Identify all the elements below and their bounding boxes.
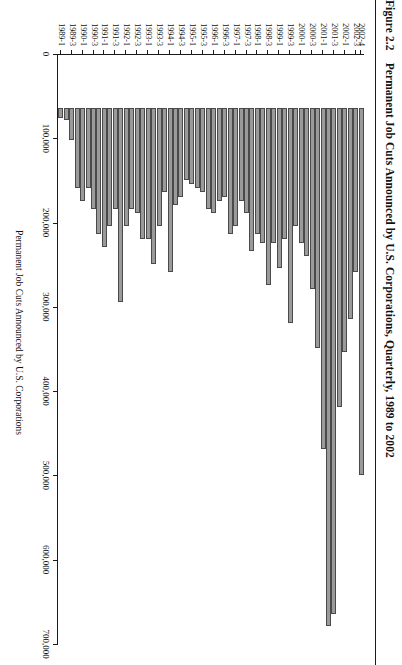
bar [118, 108, 123, 302]
value-axis-tick-label: 600,000 [41, 545, 51, 574]
category-axis-tick [300, 50, 301, 54]
category-axis-label: 2000-1 [297, 23, 306, 46]
category-axis-tick [289, 50, 290, 54]
category-axis-label: 1993-1 [144, 23, 153, 46]
rotated-page-wrapper: Figure 2.2Permanent Job Cuts Announced b… [0, 0, 402, 665]
category-axis-label: 1995-1 [187, 23, 196, 46]
category-axis-label: 1997-1 [231, 23, 240, 46]
bar [69, 108, 74, 140]
category-axis-label: 1989-1 [56, 23, 65, 46]
value-axis-tick-label: 300,000 [41, 292, 51, 321]
category-axis-label: 1999-3 [286, 23, 295, 46]
bar [129, 108, 134, 209]
value-axis-tick [53, 560, 58, 561]
category-axis-tick [278, 50, 279, 54]
bar [342, 108, 347, 352]
bar [124, 108, 129, 226]
category-axis-label: 2001-3 [329, 23, 338, 46]
category-axis-tick [202, 50, 203, 54]
bar [80, 108, 85, 201]
caption-divider [375, 0, 376, 665]
bar [107, 108, 112, 226]
category-axis-tick [344, 50, 345, 54]
category-axis-label: 1997-3 [242, 23, 251, 46]
category-axis-label: 2000-3 [308, 23, 317, 46]
bar [86, 108, 91, 188]
bar [195, 108, 200, 188]
category-axis-label: 1990-1 [78, 23, 87, 46]
category-axis-tick [322, 50, 323, 54]
bar [282, 108, 287, 239]
bar [140, 108, 145, 239]
value-axis-tick [53, 223, 58, 224]
bar [157, 108, 162, 226]
category-axis-label: 2001-1 [319, 23, 328, 46]
bar [331, 108, 336, 614]
figure-caption: Figure 2.2Permanent Job Cuts Announced b… [376, 0, 396, 665]
value-axis-tick-label: 200,000 [41, 208, 51, 237]
value-axis-tick [53, 475, 58, 476]
bar [168, 108, 173, 272]
bar [321, 108, 326, 449]
category-axis-label: 1996-3 [220, 23, 229, 46]
category-axis-tick [180, 50, 181, 54]
bar [304, 108, 309, 256]
bar-chart: Permanent Job Cuts Announced by U.S. Cor… [12, 0, 364, 665]
value-axis-tick-label: 100,000 [41, 124, 51, 153]
bar [293, 108, 298, 226]
bar [64, 108, 69, 120]
category-axis-label: 1992-3 [133, 23, 142, 46]
category-axis-label: 1991-1 [100, 23, 109, 46]
bar [113, 108, 118, 209]
category-axis-tick [93, 50, 94, 54]
bar [75, 108, 80, 188]
value-axis-tick [53, 307, 58, 308]
category-axis-label: 1990-3 [89, 23, 98, 46]
value-axis-tick [53, 644, 58, 645]
bar [277, 108, 282, 268]
category-axis-tick [213, 50, 214, 54]
category-axis-label: 2002-4 [357, 23, 366, 46]
value-axis-tick-label: 400,000 [41, 377, 51, 406]
value-axis-tick-label: 0 [41, 52, 51, 57]
category-axis-tick [147, 50, 148, 54]
category-axis-label: 1995-3 [198, 23, 207, 46]
bar [239, 108, 244, 201]
bar [200, 108, 205, 192]
category-axis-tick [158, 50, 159, 54]
bar [271, 108, 276, 243]
bar [178, 108, 183, 197]
category-axis-line [58, 54, 364, 55]
value-axis-line [57, 54, 58, 644]
bar [244, 108, 249, 213]
category-axis-label: 1994-1 [166, 23, 175, 46]
category-axis-label: 1993-3 [155, 23, 164, 46]
category-axis-label: 1996-1 [209, 23, 218, 46]
value-axis-title: Permanent Job Cuts Announced by U.S. Cor… [14, 0, 24, 665]
bar [353, 108, 358, 272]
bar [217, 108, 222, 201]
bar [206, 108, 211, 209]
value-axis-tick-label: 500,000 [41, 461, 51, 490]
category-axis-label: 1998-1 [253, 23, 262, 46]
bar [222, 108, 227, 197]
figure-number: Figure 2.2 [384, 0, 396, 51]
bar [162, 108, 167, 192]
category-axis-tick [360, 50, 361, 54]
category-axis-tick [60, 50, 61, 54]
category-axis-label: 1989-3 [67, 23, 76, 46]
bar [255, 108, 260, 234]
category-axis-tick [333, 50, 334, 54]
bar [348, 108, 353, 319]
category-axis-tick [125, 50, 126, 54]
bar [266, 108, 271, 285]
bar [102, 108, 107, 247]
bar [310, 108, 315, 289]
plot-canvas [58, 54, 364, 644]
category-axis-label: 1998-3 [264, 23, 273, 46]
bar [146, 108, 151, 239]
bar [288, 108, 293, 323]
category-axis-tick [246, 50, 247, 54]
category-axis-tick [114, 50, 115, 54]
category-axis-label: 1991-3 [111, 23, 120, 46]
